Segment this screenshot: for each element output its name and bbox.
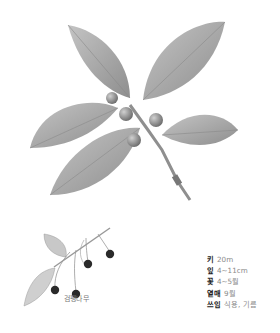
fact-label: 쓰임: [207, 300, 221, 309]
fact-leaf: 잎4~11cm: [207, 265, 257, 276]
fruit: [106, 92, 118, 104]
fact-label: 키: [207, 255, 214, 264]
fact-label: 꽃: [207, 277, 214, 286]
fact-flower: 꽃4~5월: [207, 276, 257, 287]
fruit: [119, 107, 133, 121]
fact-use: 쓰임식용, 기름: [207, 299, 257, 310]
main-branch-illustration: [0, 0, 280, 230]
berry: [84, 260, 92, 268]
fact-height: 키20m: [207, 254, 257, 265]
fact-label: 잎: [207, 266, 214, 275]
berry: [51, 286, 59, 294]
fruit: [127, 133, 141, 147]
fact-value: 식용, 기름: [224, 300, 257, 309]
species-caption: 검팽나무: [64, 293, 89, 303]
fact-value: 4~5월: [217, 277, 239, 286]
fact-fruit: 열매9월: [207, 288, 257, 299]
leaf: [162, 115, 238, 145]
fruit: [149, 113, 163, 127]
fact-value: 9월: [224, 289, 236, 298]
facts-list: 키20m 잎4~11cm 꽃4~5월 열매9월 쓰임식용, 기름: [207, 254, 257, 310]
fact-label: 열매: [207, 289, 221, 298]
berry: [106, 250, 114, 258]
fact-value: 20m: [217, 255, 233, 264]
fact-value: 4~11cm: [217, 266, 248, 275]
